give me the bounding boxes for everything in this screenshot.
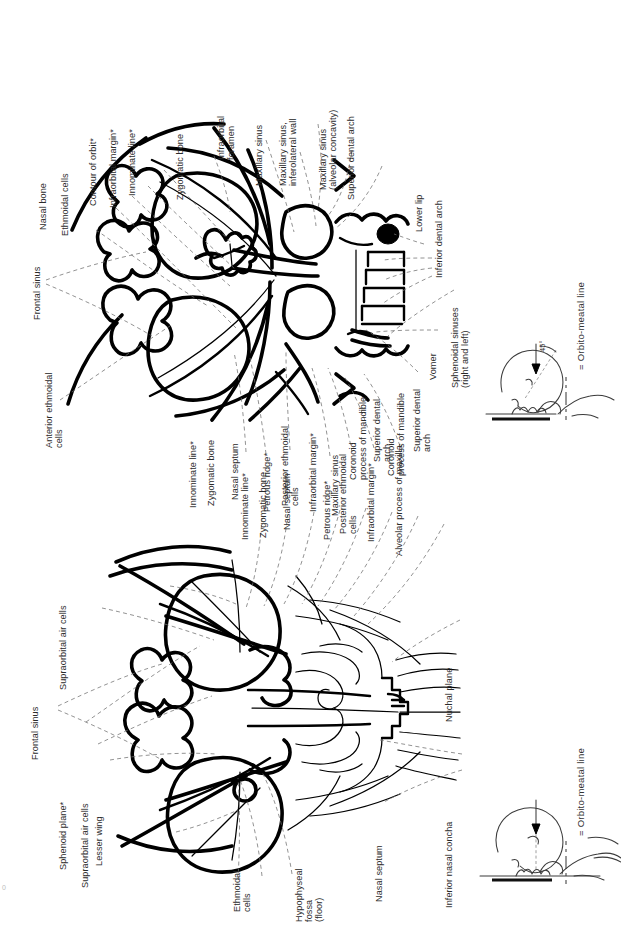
label-vomer: Vomer	[428, 353, 438, 380]
lower-leader-lines	[58, 508, 462, 880]
lower-skull-drawing	[110, 547, 460, 873]
label-nasal-septum-lower: Nasal septum	[230, 443, 240, 500]
label-lesser-wing: Lesser wing	[94, 816, 104, 866]
label-nasal-septum-lower-left: Nasal septum	[374, 845, 384, 902]
label-ethmoidal-cells-lower: Ethmoidal cells	[232, 871, 252, 912]
label-innominate-line: Innominate line*	[127, 129, 137, 196]
label-nuchal-plane: Nuchal plane	[444, 668, 454, 722]
page-mark: 0	[2, 884, 6, 891]
label-posterior-ethmoidal-cells-lower: Posterior ethmoidal cells	[280, 426, 300, 506]
upper-skull-drawing	[68, 124, 408, 420]
label-infraorbital-margin-lower: Infraorbital margin*	[308, 433, 318, 512]
label-infraorbital-foramen: Infraorbital foramen	[216, 116, 236, 160]
figure-page: Nasal bone Ethmoidal cells Contour of or…	[0, 0, 621, 931]
label-coronoid-process-of-mandible-lower: Coronoid process of mandible	[348, 397, 368, 480]
label-superior-dental-arch-2: Superior dental arch	[412, 389, 432, 452]
label-hypophyseal-fossa: Hypophyseal fossa (floor)	[294, 868, 325, 922]
label-supraorbital-air-cells-2: Supraorbital air cells	[80, 803, 90, 888]
label-lower-lip: Lower lip	[414, 195, 424, 232]
label-maxillary-sinus-inferolateral-wall: Maxillary sinus, inferolateral wall	[278, 118, 298, 186]
angle-label-45: 45°	[538, 340, 548, 352]
label-alveolar-process-of-maxilla: Alveolar process of maxilla	[394, 445, 404, 556]
label-petrous-ridge-lower: Petrous ridge*	[262, 453, 272, 512]
label-nasal-bone: Nasal bone	[38, 183, 48, 230]
label-frontal-sinus-lower: Frontal sinus	[30, 707, 40, 760]
label-maxillary-sinus-lower: Maxillary sinus	[330, 455, 340, 516]
label-supraorbital-air-cells: Supraorbital air cells	[58, 605, 68, 690]
label-maxillary-sinus: Maxillary sinus	[254, 125, 264, 186]
label-innominate-line-2: Innominate line*	[240, 473, 250, 540]
label-anterior-ethmoidal-cells: Anterior ethmoidal cells	[44, 372, 64, 448]
positioning-inset-45	[486, 344, 614, 419]
label-frontal-sinus-upper: Frontal sinus	[32, 267, 42, 320]
legend-orbito-meatal-line-lower: = Orbito-meatal line	[576, 748, 586, 836]
label-infraorbital-margin: Infraorbital margin*	[108, 129, 118, 208]
label-zygomatic-bone: Zygomatic bone	[175, 134, 185, 200]
label-sphenoidal-sinuses: Sphenoidal sinuses (right and left)	[450, 307, 470, 388]
label-sphenoid-plane: Sphenoid plane*	[58, 802, 68, 870]
label-maxillary-sinus-alveolar-concavity: Maxillary sinus (alveolar concavity)	[318, 110, 338, 190]
label-ethmoidal-cells: Ethmoidal cells	[60, 173, 70, 236]
label-superior-dental-arch-lower: Superior dental arch	[372, 399, 392, 462]
label-innominate-line-lower: Innominate line*	[188, 441, 198, 508]
legend-orbito-meatal-line-upper: = Orbito-meatal line	[576, 282, 586, 370]
label-superior-dental-arch-upper: Superior dental arch	[346, 116, 356, 200]
label-inferior-dental-arch: Inferior dental arch	[434, 200, 444, 278]
label-inferior-nasal-concha: Inferior nasal concha	[444, 821, 454, 908]
label-zygomatic-bone-lower: Zygomatic bone	[206, 440, 216, 506]
positioning-inset-0	[480, 800, 621, 880]
label-contour-of-orbit: Contour of orbit*	[88, 138, 98, 206]
